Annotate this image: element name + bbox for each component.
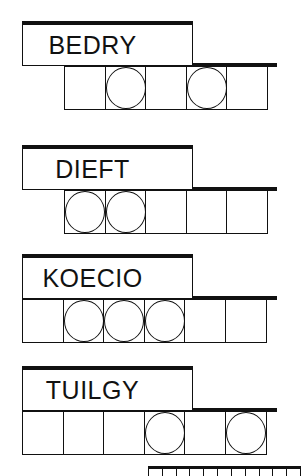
scrambled-word-box: KOECIO — [22, 254, 193, 299]
letter-cell-circled[interactable] — [186, 66, 228, 110]
letter-cell[interactable] — [226, 190, 268, 234]
answer-cells — [64, 66, 268, 110]
circle-marker-icon — [64, 300, 104, 342]
letter-cell[interactable] — [184, 299, 226, 343]
circle-marker-icon — [226, 412, 266, 454]
letter-cell[interactable] — [186, 190, 228, 234]
letter-cell-circled[interactable] — [63, 299, 105, 343]
circle-marker-icon — [145, 300, 185, 342]
scrambled-word-box: BEDRY — [22, 21, 193, 66]
letter-cell[interactable] — [225, 299, 267, 343]
letter-cell-circled[interactable] — [144, 411, 186, 455]
answer-cells — [64, 190, 268, 234]
answer-slot[interactable] — [149, 469, 163, 476]
answer-slot[interactable] — [260, 469, 274, 476]
answer-slot[interactable] — [163, 469, 177, 476]
circle-marker-icon — [104, 300, 144, 342]
letter-cell-circled[interactable] — [103, 299, 145, 343]
circle-marker-icon — [65, 191, 105, 233]
letter-cell[interactable] — [145, 66, 187, 110]
answer-cells — [22, 299, 267, 343]
scrambled-word-box: TUILGY — [22, 366, 193, 411]
letter-cell-circled[interactable] — [225, 411, 267, 455]
letter-cell[interactable] — [145, 190, 187, 234]
letter-cell[interactable] — [103, 411, 145, 455]
circle-marker-icon — [106, 191, 146, 233]
letter-cell-circled[interactable] — [144, 299, 186, 343]
letter-cell-circled[interactable] — [64, 190, 106, 234]
letter-cell[interactable] — [184, 411, 226, 455]
answer-slot[interactable] — [177, 469, 191, 476]
scrambled-word-box: DIEFT — [22, 145, 193, 190]
letter-cell[interactable] — [22, 411, 64, 455]
scrambled-word: DIEFT — [55, 155, 160, 184]
answer-slot[interactable] — [287, 469, 301, 476]
scrambled-word: KOECIO — [42, 264, 172, 293]
letter-cell[interactable] — [64, 66, 106, 110]
answer-slot[interactable] — [218, 469, 232, 476]
answer-cells — [22, 411, 267, 455]
final-answer-strip — [148, 466, 301, 476]
letter-cell[interactable] — [22, 299, 64, 343]
circle-marker-icon — [187, 67, 227, 109]
letter-cell-circled[interactable] — [105, 66, 147, 110]
letter-cell-circled[interactable] — [105, 190, 147, 234]
circle-marker-icon — [145, 412, 185, 454]
letter-cell[interactable] — [63, 411, 105, 455]
circle-marker-icon — [106, 67, 146, 109]
answer-slot[interactable] — [273, 469, 287, 476]
answer-slot[interactable] — [246, 469, 260, 476]
answer-slot[interactable] — [190, 469, 204, 476]
scrambled-word: BEDRY — [48, 31, 166, 60]
scrambled-word: TUILGY — [46, 376, 169, 405]
letter-cell[interactable] — [226, 66, 268, 110]
answer-slot[interactable] — [204, 469, 218, 476]
answer-slot[interactable] — [232, 469, 246, 476]
